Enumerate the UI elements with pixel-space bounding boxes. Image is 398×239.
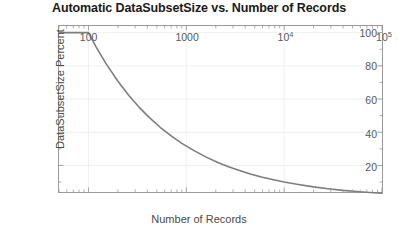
x-tick-label-exponent: 5: [388, 30, 392, 39]
y-axis-label-wrapper: DataSubsetSize Percent: [58, 25, 383, 193]
x-axis-label: Number of Records: [0, 213, 398, 225]
y-axis-label: DataSubsetSize Percent: [54, 9, 66, 169]
chart-screenshot: Automatic DataSubsetSize vs. Number of R…: [0, 0, 398, 239]
